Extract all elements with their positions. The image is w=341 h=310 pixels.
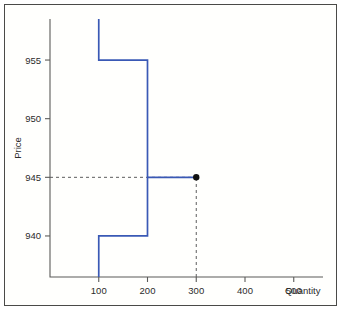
y-tick-label: 945 — [25, 172, 41, 183]
clearing-point — [193, 174, 199, 180]
x-tick-label: 200 — [140, 285, 156, 296]
x-axis-title: Quantity — [285, 285, 321, 296]
axes — [50, 19, 323, 277]
supply-schedule — [99, 19, 148, 277]
x-tick-label: 300 — [188, 285, 204, 296]
step-chart: 940945950955100200300400500QuantityPrice — [5, 5, 338, 307]
plot-area: 940945950955100200300400500QuantityPrice — [5, 5, 336, 305]
y-tick-label: 940 — [25, 230, 41, 241]
y-axis-title: Price — [12, 137, 23, 159]
x-tick-label: 400 — [237, 285, 253, 296]
x-tick-label: 100 — [91, 285, 107, 296]
y-tick-label: 955 — [25, 55, 41, 66]
figure-border: 940945950955100200300400500QuantityPrice — [4, 4, 337, 306]
y-tick-label: 950 — [25, 113, 41, 124]
figure: 940945950955100200300400500QuantityPrice — [0, 0, 341, 310]
